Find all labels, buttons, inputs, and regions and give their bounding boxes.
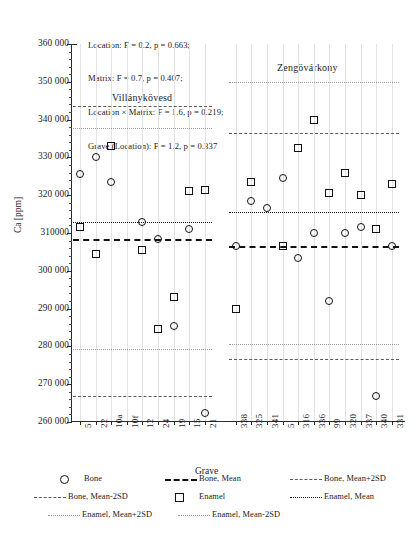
y-axis-tick-label: 360 000	[0, 39, 69, 48]
data-point-enamel	[388, 180, 396, 188]
legend-label: Enamel	[199, 492, 225, 501]
y-axis-minor-tick	[69, 377, 72, 378]
x-axis-tick	[158, 421, 159, 425]
legend-label: Bone	[84, 474, 102, 483]
legend-circle-icon	[50, 473, 84, 485]
y-axis-minor-tick	[69, 392, 72, 393]
y-axis-minor-tick	[69, 188, 72, 189]
data-point-bone	[154, 235, 162, 243]
y-axis-minor-tick	[69, 293, 72, 294]
legend-item[interactable]: Enamel, Mean	[290, 488, 374, 505]
legend-symbol-glyph	[34, 497, 66, 498]
gridline-vertical	[283, 44, 284, 421]
y-axis-tick-label: 350 000	[0, 77, 69, 86]
ca-ppm-scatter-figure: Location: F = 0.2, p = 0.663; Matrix: F …	[0, 0, 413, 535]
data-point-enamel	[170, 293, 178, 301]
data-point-enamel	[341, 169, 349, 177]
data-point-enamel	[247, 178, 255, 186]
x-axis-tick-label: 10a	[114, 414, 124, 428]
x-axis-tick-label: 331	[395, 414, 405, 428]
y-axis-minor-tick	[69, 112, 72, 113]
gridline-vertical	[127, 44, 128, 421]
y-axis-minor-tick	[69, 218, 72, 219]
x-axis-tick	[236, 421, 237, 425]
y-axis-tick-label: 270 000	[0, 379, 69, 388]
y-axis-minor-tick	[69, 127, 72, 128]
data-point-bone	[232, 242, 240, 250]
legend-symbol-glyph	[178, 515, 210, 516]
data-point-enamel	[357, 191, 365, 199]
gridline-vertical	[205, 44, 206, 421]
x-axis-tick	[298, 421, 299, 425]
refline-bone-mean-minus-2sd	[73, 396, 212, 397]
y-axis-minor-tick	[69, 104, 72, 105]
x-axis-tick-label: 15	[192, 419, 202, 428]
y-axis-tick-label: 300 000	[0, 266, 69, 275]
data-point-bone	[372, 392, 380, 400]
y-axis-minor-tick	[69, 331, 72, 332]
x-axis-tick	[361, 421, 362, 425]
legend-item[interactable]: Enamel	[165, 488, 225, 505]
x-axis-tick-label: 340	[379, 414, 389, 428]
legend-dot-icon	[290, 491, 324, 503]
y-axis-minor-tick	[69, 248, 72, 249]
legend-item[interactable]: Bone	[50, 470, 102, 487]
refline-enamel-mean-minus-2sd	[73, 349, 212, 350]
legend-thick-dash-icon	[165, 473, 199, 485]
legend-row: Bone, Mean-2SDEnamelEnamel, Mean	[0, 488, 413, 505]
y-axis-minor-tick	[69, 210, 72, 211]
y-axis-minor-tick	[69, 399, 72, 400]
legend-label: Bone, Mean+2SD	[324, 474, 386, 483]
data-point-enamel	[107, 142, 115, 150]
y-axis-minor-tick	[69, 256, 72, 257]
x-axis-tick	[314, 421, 315, 425]
x-axis-tick-label: 338	[239, 414, 249, 428]
legend-symbol-glyph	[48, 515, 80, 516]
legend-item[interactable]: Enamel, Mean-2SD	[178, 506, 280, 523]
data-point-enamel	[154, 325, 162, 333]
data-point-enamel	[310, 116, 318, 124]
x-axis-tick-label: 12	[145, 419, 155, 428]
legend-label: Enamel, Mean	[324, 492, 374, 501]
y-axis-minor-tick	[69, 339, 72, 340]
data-point-bone	[388, 242, 396, 250]
y-axis-minor-tick	[69, 74, 72, 75]
x-axis-tick	[142, 421, 143, 425]
axis-corner-top	[72, 44, 77, 45]
data-point-bone	[247, 197, 255, 205]
y-axis-minor-tick	[69, 407, 72, 408]
refline-bone-mean-minus-2sd	[229, 359, 399, 360]
x-axis-tick-label: 21	[208, 419, 218, 428]
data-point-enamel	[185, 187, 193, 195]
x-axis-tick-label: 316	[301, 414, 311, 428]
legend-dash-icon	[290, 473, 324, 485]
x-axis-tick	[80, 421, 81, 425]
legend-item[interactable]: Bone, Mean+2SD	[290, 470, 386, 487]
gridline-vertical	[96, 44, 97, 421]
refline-bone-mean-plus-2sd	[73, 106, 212, 107]
x-axis-tick	[251, 421, 252, 425]
y-axis-tick-label: 260 000	[0, 417, 69, 426]
y-axis-minor-tick	[69, 414, 72, 415]
y-axis-minor-tick	[69, 89, 72, 90]
gridline-vertical	[158, 44, 159, 421]
legend-item[interactable]: Bone, Mean-2SD	[34, 488, 128, 505]
x-axis-tick-label: 19	[177, 419, 187, 428]
data-point-bone	[185, 225, 193, 233]
x-axis-tick	[329, 421, 330, 425]
y-axis-minor-tick	[69, 203, 72, 204]
refline-enamel-mean-plus-2sd	[73, 128, 212, 129]
data-point-bone	[357, 223, 365, 231]
x-axis-tick-label: 10f	[130, 415, 140, 428]
legend-row: Enamel, Mean+2SDEnamel, Mean-2SD	[0, 506, 413, 523]
gridline-vertical	[142, 44, 143, 421]
y-axis-minor-tick	[69, 173, 72, 174]
y-axis-tick-label: 290 000	[0, 304, 69, 313]
data-point-enamel	[232, 305, 240, 313]
legend-item[interactable]: Enamel, Mean+2SD	[48, 506, 152, 523]
gridline-vertical	[392, 44, 393, 421]
refline-bone-mean	[73, 239, 212, 241]
gridline-vertical	[174, 44, 175, 421]
x-axis-tick-label: 5	[286, 423, 296, 428]
legend-item[interactable]: Bone, Mean	[165, 470, 241, 487]
